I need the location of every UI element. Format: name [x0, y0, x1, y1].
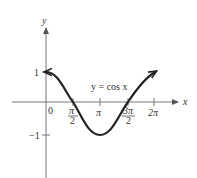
origin-label: 0	[48, 105, 53, 116]
x-tick-three-pi-half: 3π 2	[122, 105, 135, 126]
x-tick-pi: π	[96, 107, 102, 118]
y-tick-one: 1	[34, 67, 39, 78]
x-tick-two-pi: 2π	[148, 107, 159, 118]
svg-text:2: 2	[126, 115, 131, 126]
cosine-graph: y x y = cos x 0 1 −1 π 2 π 3π 2 2π	[0, 0, 197, 178]
y-axis-label: y	[41, 15, 47, 26]
svg-text:2: 2	[70, 115, 75, 126]
function-label: y = cos x	[91, 81, 127, 92]
x-axis-label: x	[182, 96, 188, 107]
y-tick-neg-one: −1	[29, 130, 40, 141]
